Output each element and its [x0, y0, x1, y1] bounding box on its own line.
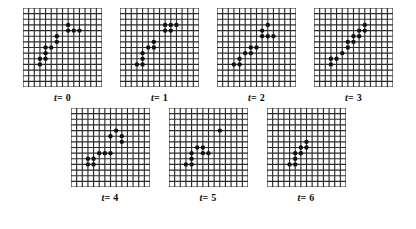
panel-label-t2: t= 2 [248, 92, 265, 103]
panel-label-t6: t= 6 [297, 192, 314, 203]
grid-panel-t3 [314, 8, 393, 87]
panel-row-bottom: t= 4 t= 5 t= 6 [0, 103, 416, 203]
grid-panel-t5 [169, 108, 248, 187]
grid-lines-t4 [71, 108, 150, 187]
label-value-t0: 0 [66, 92, 71, 103]
panel-t1: t= 1 [120, 8, 199, 103]
panel-label-t0: t= 0 [54, 92, 71, 103]
panel-t0: t= 0 [23, 8, 102, 103]
label-value-t1: 1 [163, 92, 168, 103]
label-equals-t4: = [104, 192, 110, 203]
panel-label-t1: t= 1 [151, 92, 168, 103]
label-value-t4: 4 [113, 192, 118, 203]
panel-label-t3: t= 3 [345, 92, 362, 103]
grid-panel-t0 [23, 8, 102, 87]
label-equals-t3: = [348, 92, 354, 103]
panel-t6: t= 6 [267, 108, 346, 203]
label-value-t6: 6 [309, 192, 314, 203]
label-value-t3: 3 [357, 92, 362, 103]
grid-panel-t2 [217, 8, 296, 87]
label-value-t5: 5 [211, 192, 216, 203]
label-value-t2: 2 [260, 92, 265, 103]
label-equals-t6: = [300, 192, 306, 203]
panel-t2: t= 2 [217, 8, 296, 103]
panel-row-top: t= 0 t= 1 t= 2 t= 3 [0, 0, 416, 103]
grid-lines-t3 [314, 8, 393, 87]
simulation-timestep-figure: t= 0 t= 1 t= 2 t= 3 [0, 0, 416, 229]
grid-panel-t1 [120, 8, 199, 87]
grid-lines-t2 [217, 8, 296, 87]
label-equals-t0: = [57, 92, 63, 103]
grid-lines-t1 [120, 8, 199, 87]
panel-t3: t= 3 [314, 8, 393, 103]
grid-panel-t6 [267, 108, 346, 187]
panel-t4: t= 4 [71, 108, 150, 203]
label-equals-t5: = [202, 192, 208, 203]
panel-label-t4: t= 4 [101, 192, 118, 203]
grid-lines-t0 [23, 8, 102, 87]
grid-panel-t4 [71, 108, 150, 187]
grid-lines-t6 [267, 108, 346, 187]
label-equals-t1: = [154, 92, 160, 103]
grid-lines-t5 [169, 108, 248, 187]
panel-label-t5: t= 5 [199, 192, 216, 203]
label-equals-t2: = [251, 92, 257, 103]
panel-t5: t= 5 [169, 108, 248, 203]
